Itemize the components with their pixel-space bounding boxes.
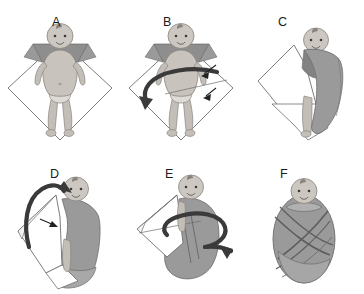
baby-right-eye [185, 35, 188, 38]
swaddling-instruction-figure: A [0, 0, 364, 294]
panel-e-label: E [165, 168, 174, 181]
panel-a-label: A [52, 16, 61, 29]
baby-torso [43, 50, 77, 96]
baby-right-eye [308, 190, 311, 193]
panel-b-illustration [121, 0, 242, 147]
panel-f-label: F [280, 168, 288, 181]
baby-leg [63, 239, 71, 272]
baby-right-foot [64, 130, 74, 137]
panel-e: E [121, 147, 242, 294]
panel-a: A [0, 0, 121, 147]
baby-right-eye [80, 188, 83, 191]
panel-f-illustration [242, 147, 364, 294]
panel-c-illustration [242, 0, 364, 147]
baby-left-eye [310, 39, 313, 42]
baby-left-eye [175, 35, 178, 38]
panel-d-label: D [50, 168, 59, 181]
panel-e-illustration [121, 147, 242, 294]
baby-navel [58, 83, 61, 85]
baby-right-eye [320, 39, 323, 42]
panel-d-illustration [0, 147, 121, 294]
baby-figure [291, 179, 317, 204]
panel-b: B [121, 0, 242, 147]
baby-legs [303, 96, 313, 135]
baby-foot [301, 131, 311, 137]
panel-f: F [242, 147, 364, 294]
panel-b-label: B [163, 16, 172, 29]
baby-left-foot [46, 130, 56, 137]
baby-right-foot [185, 130, 195, 137]
panel-d: D [0, 147, 121, 294]
baby-right-eye [195, 186, 198, 189]
panel-c-label: C [278, 16, 287, 29]
baby-left-eye [185, 186, 188, 189]
baby-left-foot [167, 130, 177, 137]
baby-left-eye [70, 188, 73, 191]
baby-left-eye [54, 35, 57, 38]
baby-right-eye [64, 35, 67, 38]
panel-c: C [242, 0, 364, 147]
baby-left-eye [298, 190, 301, 193]
